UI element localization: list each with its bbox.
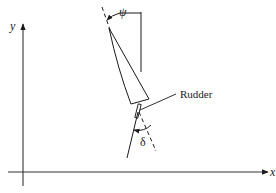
rudder-callout-label: Rudder [180,88,213,100]
rudder [135,104,141,118]
rudder-angle-label: δ [140,135,146,149]
y-axis-label: y [9,19,16,33]
ship-diagram: y x ψ δ Rudder [0,0,276,193]
heading-angle-label: ψ [119,5,127,19]
rudder-angle-arrow [134,125,151,130]
rudder-direction-line [127,112,138,158]
ship-hull [109,28,149,104]
x-axis-label: x [269,165,276,179]
